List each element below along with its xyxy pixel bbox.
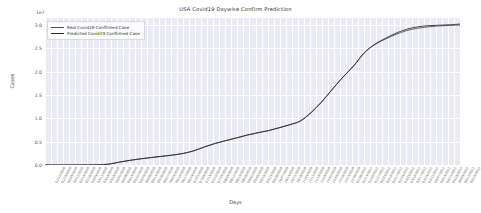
legend-label-real: Real Covid19 Confirmed Case (67, 25, 129, 30)
chart-legend: Real Covid19 Confirmed Case Predicted Co… (47, 21, 145, 40)
line-real-cases (45, 25, 460, 165)
y-axis-tick-labels: 0.00.51.01.52.02.53.0 (0, 18, 45, 165)
x-axis-label: Days (0, 199, 471, 205)
legend-line-predicted (51, 33, 64, 34)
y-tick-label: 1.5 (5, 93, 45, 98)
y-tick-label: 2.5 (5, 46, 45, 51)
line-predicted-cases (45, 24, 460, 165)
plot-area (45, 18, 460, 165)
y-tick-label: 1.0 (5, 116, 45, 121)
y-tick-label: 0.0 (5, 163, 45, 168)
x-axis-tick-labels: 01/22/202001/29/202002/05/202002/12/2020… (45, 166, 460, 200)
legend-line-real (51, 27, 64, 28)
series-lines (45, 18, 460, 165)
legend-label-predicted: Predicted Covid19 Confirmed Case (67, 31, 140, 36)
y-tick-label: 3.0 (5, 23, 45, 28)
y-axis-exponent-label: 1e7 (36, 10, 45, 15)
y-tick-label: 2.0 (5, 69, 45, 74)
y-tick-label: 0.5 (5, 139, 45, 144)
chart-title: USA Covid19 Daywise Confirm Prediction (0, 6, 471, 12)
legend-item-predicted: Predicted Covid19 Confirmed Case (51, 31, 140, 38)
